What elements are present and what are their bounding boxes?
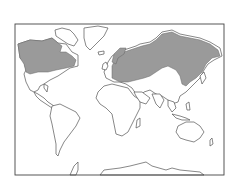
world-map — [0, 0, 242, 186]
iceland — [98, 51, 104, 55]
philippines — [186, 102, 190, 110]
